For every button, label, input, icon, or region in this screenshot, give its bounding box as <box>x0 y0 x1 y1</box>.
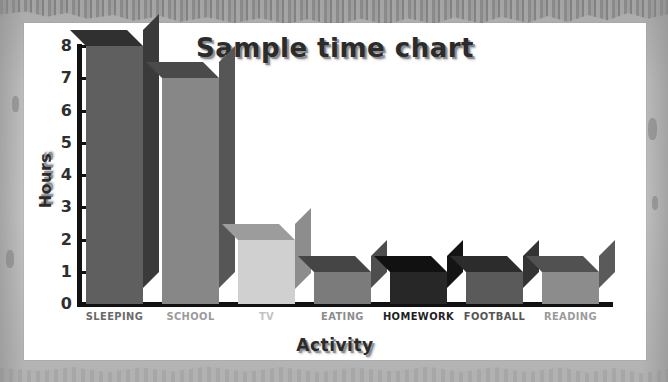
x-axis-title: Activity <box>24 335 646 355</box>
bar-front-face <box>466 272 523 304</box>
bar-school[interactable] <box>162 78 219 304</box>
texture-speck <box>652 196 658 210</box>
x-label-school: SCHOOL <box>154 310 227 323</box>
bar-front-face <box>542 272 599 304</box>
y-tick-label: 6 <box>46 103 72 119</box>
bar-side-face <box>599 240 615 288</box>
bar-sleeping[interactable] <box>86 46 143 304</box>
y-tick-label: 3 <box>46 199 72 215</box>
texture-speck <box>648 118 657 140</box>
y-tick-label: 8 <box>46 38 72 54</box>
bar-front-face <box>162 78 219 304</box>
bar-side-face <box>143 14 159 288</box>
bar-chart: Sample time chart Hours Activity 0123456… <box>24 23 646 360</box>
x-label-tv: TV <box>230 310 303 323</box>
x-label-eating: EATING <box>306 310 379 323</box>
x-label-reading: READING <box>534 310 607 323</box>
x-label-sleeping: SLEEPING <box>78 310 151 323</box>
bar-football[interactable] <box>466 272 523 304</box>
grunge-texture-left <box>0 0 24 382</box>
bar-side-face <box>219 46 235 288</box>
y-tick-label: 2 <box>46 232 72 248</box>
grunge-texture-bottom <box>0 360 668 382</box>
bar-front-face <box>314 272 371 304</box>
texture-speck <box>12 96 19 112</box>
bar-homework[interactable] <box>390 272 447 304</box>
y-tick-label: 1 <box>46 264 72 280</box>
texture-speck <box>6 250 14 268</box>
poster-background: Sample time chart Hours Activity 0123456… <box>0 0 668 382</box>
x-label-homework: HOMEWORK <box>382 310 455 323</box>
y-tick-label: 5 <box>46 135 72 151</box>
bar-eating[interactable] <box>314 272 371 304</box>
y-tick-label: 7 <box>46 70 72 86</box>
bar-reading[interactable] <box>542 272 599 304</box>
y-tick-label: 0 <box>46 296 72 312</box>
bar-side-face <box>295 208 311 289</box>
bar-front-face <box>390 272 447 304</box>
bar-tv[interactable] <box>238 240 295 305</box>
y-tick-label: 4 <box>46 167 72 183</box>
bar-front-face <box>238 240 295 305</box>
chart-card: Sample time chart Hours Activity 0123456… <box>24 23 646 360</box>
bar-front-face <box>86 46 143 304</box>
x-label-football: FOOTBALL <box>458 310 531 323</box>
